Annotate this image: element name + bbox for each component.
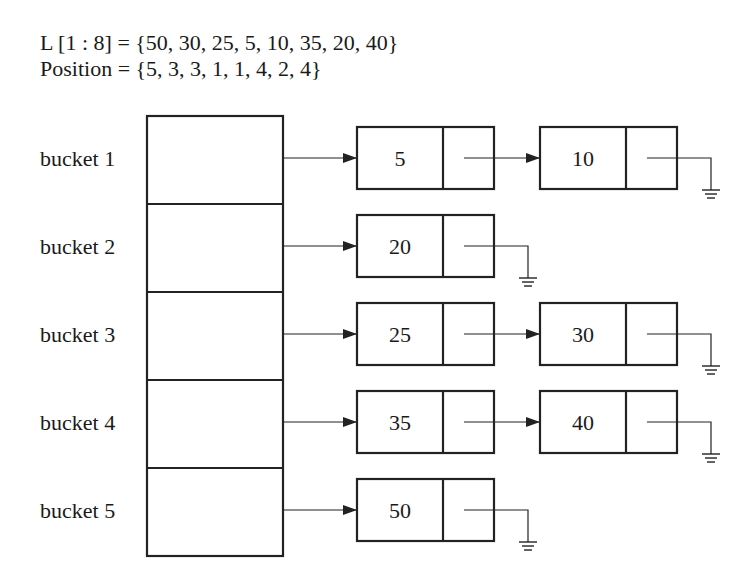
bucket-label: bucket 2	[40, 234, 115, 259]
bucket-label: bucket 5	[40, 498, 115, 523]
node-value: 50	[389, 498, 411, 523]
node-value: 25	[389, 322, 411, 347]
node-value: 40	[572, 410, 594, 435]
list-node: 30	[540, 303, 720, 374]
list-node: 5	[357, 127, 540, 189]
ground-symbol-icon	[464, 510, 537, 550]
bucket-1: bucket 1510	[40, 127, 720, 198]
bucket-2: bucket 220	[40, 204, 537, 286]
list-node: 40	[540, 391, 720, 462]
list-node: 20	[357, 215, 537, 286]
ground-symbol-icon	[647, 158, 720, 198]
list-node: 50	[357, 479, 537, 550]
bucket-5: bucket 550	[40, 468, 537, 550]
node-value: 35	[389, 410, 411, 435]
bucket-label: bucket 4	[40, 410, 115, 435]
node-value: 5	[395, 146, 406, 171]
bucket-diagram: bucket 1510bucket 220bucket 32530bucket …	[0, 0, 752, 575]
ground-symbol-icon	[647, 334, 720, 374]
bucket-4: bucket 43540	[40, 380, 720, 462]
bucket-label: bucket 3	[40, 322, 115, 347]
node-value: 20	[389, 234, 411, 259]
ground-symbol-icon	[647, 422, 720, 462]
ground-symbol-icon	[464, 246, 537, 286]
list-node: 25	[357, 303, 540, 365]
bucket-array	[147, 116, 283, 556]
bucket-label: bucket 1	[40, 146, 115, 171]
list-node: 10	[540, 127, 720, 198]
bucket-3: bucket 32530	[40, 292, 720, 374]
node-value: 10	[572, 146, 594, 171]
list-node: 35	[357, 391, 540, 453]
node-value: 30	[572, 322, 594, 347]
